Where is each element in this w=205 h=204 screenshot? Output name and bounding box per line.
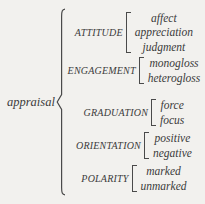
- square-bracket-icon: [144, 132, 150, 159]
- group-label: GRADUATION: [84, 107, 151, 118]
- group-label: ENGAGEMENT: [68, 65, 139, 76]
- group-items: affect appreciation judgment: [135, 11, 193, 55]
- item: force: [161, 98, 184, 113]
- root-label: appraisal: [7, 95, 55, 110]
- appraisal-taxonomy-diagram: appraisal ATTITUDE affect appreciation j…: [0, 0, 205, 204]
- item: unmarked: [141, 179, 187, 194]
- group-label: ORIENTATION: [76, 140, 144, 151]
- item: judgment: [142, 40, 185, 55]
- square-bracket-icon: [132, 165, 138, 192]
- item: appreciation: [135, 25, 193, 40]
- item: marked: [146, 164, 181, 179]
- curly-brace-icon: [56, 8, 66, 196]
- square-bracket-icon: [139, 57, 145, 84]
- group-engagement: ENGAGEMENT monogloss heterogloss: [66, 56, 202, 85]
- item: focus: [160, 113, 184, 128]
- group-graduation: GRADUATION force focus: [66, 98, 202, 127]
- item: heterogloss: [148, 71, 201, 86]
- item: positive: [155, 131, 191, 146]
- group-items: marked unmarked: [141, 164, 187, 193]
- item: affect: [151, 11, 177, 26]
- group-attitude: ATTITUDE affect appreciation judgment: [66, 11, 202, 55]
- group-items: monogloss heterogloss: [148, 56, 201, 85]
- group-orientation: ORIENTATION positive negative: [66, 131, 202, 160]
- square-bracket-icon: [151, 99, 157, 126]
- group-label: POLARITY: [81, 173, 131, 184]
- group-items: positive negative: [153, 131, 192, 160]
- group-label: ATTITUDE: [75, 27, 126, 38]
- group-polarity: POLARITY marked unmarked: [66, 164, 202, 193]
- group-items: force focus: [160, 98, 184, 127]
- item: negative: [153, 146, 192, 161]
- item: monogloss: [149, 56, 198, 71]
- square-bracket-icon: [126, 12, 132, 54]
- category-groups: ATTITUDE affect appreciation judgment EN…: [66, 10, 202, 195]
